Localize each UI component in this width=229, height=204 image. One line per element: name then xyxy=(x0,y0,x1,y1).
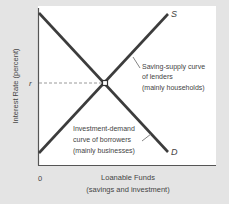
x-axis-title: Loanable Funds xyxy=(101,173,155,182)
equilibrium-point xyxy=(103,81,108,86)
x-axis-subtitle: (savings and investment) xyxy=(86,185,170,194)
origin-label: 0 xyxy=(38,174,42,183)
demand-note-line-3: (mainly businesses) xyxy=(73,147,135,155)
s-curve-label: S xyxy=(171,9,177,19)
d-curve-label: D xyxy=(171,147,178,157)
supply-note-line-1: Saving-supply curve xyxy=(142,63,205,71)
y-axis-title: Interest Rate (percent) xyxy=(11,48,20,124)
supply-note-line-2: of lenders xyxy=(142,73,173,80)
supply-note-line-3: (mainly households) xyxy=(142,84,205,92)
demand-note-line-2: curve of borrowers xyxy=(73,136,131,143)
demand-note-line-1: Investment-demand xyxy=(73,125,135,132)
r-tick-label: r xyxy=(29,79,32,88)
supply-demand-chart: S D r 0 Saving-supply curve of lenders (… xyxy=(0,0,229,204)
